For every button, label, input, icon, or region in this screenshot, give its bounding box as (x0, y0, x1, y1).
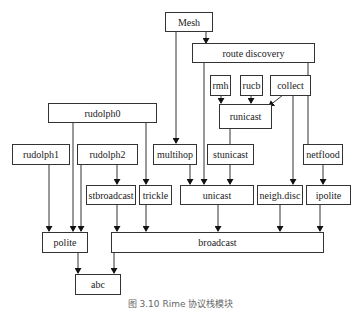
node-rucb: rucb (240, 75, 263, 96)
node-unicast: unicast (180, 185, 254, 205)
node-collect: collect (270, 75, 311, 96)
node-ipolite: ipolite (306, 185, 351, 205)
node-trickle: trickle (139, 185, 172, 205)
node-stunicast: stunicast (207, 144, 254, 165)
node-polite: polite (42, 232, 88, 253)
node-broadcast: broadcast (111, 232, 324, 253)
figure-caption: 图 3.10 Rime 协议栈模块 (0, 297, 361, 310)
node-stbroadcast: stbroadcast (86, 185, 136, 205)
node-neigh-disc: neigh.disc (257, 185, 303, 205)
node-runicast: runicast (219, 104, 272, 129)
node-rudolph0: rudolph0 (48, 103, 157, 123)
node-rmh: rmh (210, 75, 231, 96)
node-rudolph2: rudolph2 (77, 144, 138, 165)
node-mesh: Mesh (165, 12, 213, 32)
node-multihop: multihop (153, 144, 197, 165)
node-rudolph1: rudolph1 (12, 144, 70, 165)
node-route-discovery: route discovery (192, 43, 315, 63)
node-netflood: netflood (303, 144, 343, 165)
node-abc: abc (75, 274, 121, 295)
